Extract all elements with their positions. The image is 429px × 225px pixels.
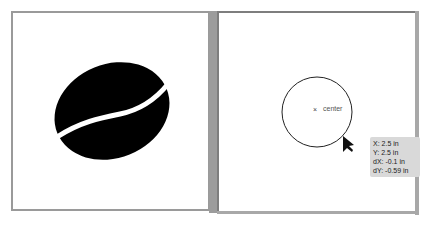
tooltip-dy: dY: -0.59 in [373,166,417,175]
center-label: center [323,105,342,112]
tooltip-y: Y: 2.5 in [373,148,417,157]
tooltip-x: X: 2.5 in [373,139,417,148]
coffee-bean-icon[interactable] [40,45,185,176]
canvas-graphics [0,0,429,225]
measurement-tooltip: X: 2.5 in Y: 2.5 in dX: -0.1 in dY: -0.5… [370,137,420,177]
tooltip-dx: dX: -0.1 in [373,157,417,166]
cursor-arrow-icon [343,136,354,152]
center-marker-icon: × [313,106,317,113]
